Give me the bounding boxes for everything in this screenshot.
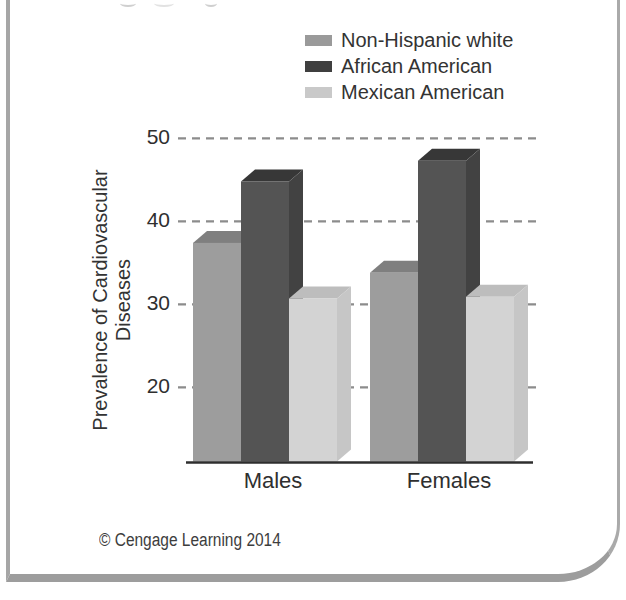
bar-males-african-american bbox=[241, 181, 289, 461]
x-category-label-females: Females bbox=[389, 468, 509, 494]
bar-chart-canvas bbox=[0, 0, 626, 600]
bar-females-non-hispanic-white bbox=[370, 273, 418, 462]
bar-males-non-hispanic-white bbox=[193, 243, 241, 462]
bar-males-mexican-american bbox=[289, 298, 337, 461]
x-category-label-males: Males bbox=[213, 468, 333, 494]
bar-females-african-american bbox=[418, 161, 466, 462]
bar-side-males-2 bbox=[337, 286, 351, 461]
bar-side-females-2 bbox=[514, 285, 528, 462]
bar-females-mexican-american bbox=[466, 297, 514, 462]
figure-panel: Non-Hispanic whiteAfrican AmericanMexica… bbox=[0, 0, 626, 600]
copyright-text: © Cengage Learning 2014 bbox=[99, 530, 281, 551]
